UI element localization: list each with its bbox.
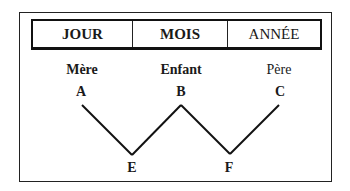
edge-e-b [132, 105, 181, 155]
edge-b-f [181, 105, 230, 154]
edge-f-c [230, 105, 279, 154]
edge-a-e [82, 105, 132, 155]
zigzag-diagram [0, 0, 350, 191]
